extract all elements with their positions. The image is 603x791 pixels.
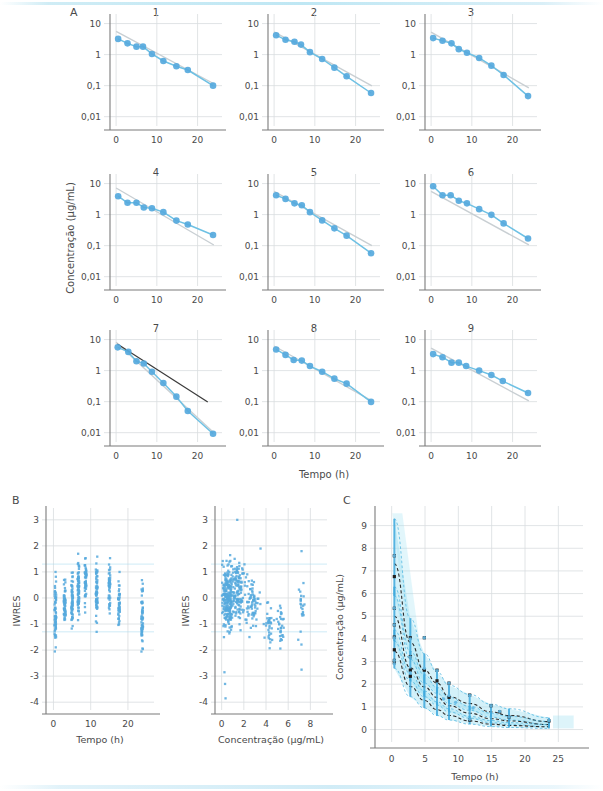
- scatter-point: [55, 598, 57, 600]
- scatter-point: [246, 607, 248, 609]
- observed-point: [393, 623, 396, 626]
- scatter-point: [55, 580, 57, 582]
- data-point: [500, 72, 507, 79]
- scatter-point: [232, 591, 234, 593]
- scatter-point: [265, 622, 267, 624]
- scatter-point: [119, 606, 121, 608]
- scatter-point: [249, 597, 251, 599]
- y-tick-label: 1: [95, 50, 101, 60]
- x-tick-label: 10: [151, 451, 163, 461]
- individual-fit-line: [433, 38, 528, 96]
- scatter-point: [251, 617, 253, 619]
- x-tick-label: 20: [350, 135, 362, 145]
- scatter-point: [279, 640, 281, 642]
- scatter-point: [77, 563, 79, 565]
- y-tick-label: 1: [253, 50, 259, 60]
- y-tick-label: 1: [410, 366, 416, 376]
- data-point: [173, 63, 180, 70]
- scatter-point: [95, 598, 97, 600]
- data-point: [368, 250, 375, 257]
- y-tick-label: 0,1: [245, 241, 259, 251]
- x-tick-label: 0: [113, 451, 119, 461]
- scatter-point: [239, 612, 241, 614]
- scatter-point: [108, 563, 110, 565]
- scatter-point: [118, 588, 120, 590]
- y-tick-label: 0,1: [87, 81, 101, 91]
- scatter-point: [277, 610, 279, 612]
- scatter-point: [239, 629, 241, 631]
- scatter-point: [63, 579, 65, 581]
- data-point: [525, 93, 532, 100]
- scatter-point: [227, 584, 229, 586]
- scatter-point: [223, 671, 225, 673]
- population-fit-line: [431, 348, 529, 401]
- data-point: [299, 357, 306, 364]
- data-point: [456, 197, 463, 204]
- scatter-point: [242, 611, 244, 613]
- scatter-point: [84, 590, 86, 592]
- scatter-point: [238, 608, 240, 610]
- scatter-point: [78, 565, 80, 567]
- scatter-point: [236, 519, 238, 521]
- scatter-point: [266, 617, 268, 619]
- data-point: [307, 363, 314, 370]
- observed-point: [468, 694, 471, 697]
- scatter-point: [108, 594, 110, 596]
- scatter-point: [223, 636, 225, 638]
- scatter-point: [109, 566, 111, 568]
- scatter-point: [234, 558, 236, 560]
- scatter-point: [227, 575, 229, 577]
- data-point: [210, 431, 217, 438]
- scatter-point: [236, 599, 238, 601]
- scatter-point: [140, 633, 142, 635]
- scatter-point: [96, 585, 98, 587]
- scatter-point: [237, 572, 239, 574]
- scatter-point: [109, 602, 111, 604]
- scatter-point: [238, 562, 240, 564]
- scatter-point: [232, 603, 234, 605]
- scatter-point: [280, 613, 282, 615]
- y-tick-label: 1: [202, 567, 208, 577]
- subplot-title: 1: [153, 7, 159, 18]
- x-tick-label: 5: [422, 754, 428, 764]
- observed-point: [498, 710, 501, 713]
- scatter-point: [221, 582, 223, 584]
- x-tick-label: 0: [271, 295, 277, 305]
- scatter-point: [251, 580, 253, 582]
- scatter-point: [302, 582, 304, 584]
- data-point: [439, 354, 446, 361]
- scatter-point: [246, 573, 248, 575]
- scatter-point: [246, 601, 248, 603]
- x-tick-label: 20: [350, 451, 362, 461]
- panel-b-label: B: [12, 494, 20, 507]
- scatter-point: [280, 630, 282, 632]
- population-fit-line: [431, 191, 529, 245]
- data-point: [124, 40, 131, 47]
- scatter-point: [118, 618, 120, 620]
- observed-point: [468, 718, 471, 721]
- y-tick-label: 10: [248, 179, 260, 189]
- scatter-point: [229, 626, 231, 628]
- scatter-point: [229, 631, 231, 633]
- scatter-point: [108, 589, 110, 591]
- scatter-point: [118, 571, 120, 573]
- scatter-point: [140, 650, 142, 652]
- scatter-point: [108, 599, 110, 601]
- scatter-point: [246, 585, 248, 587]
- data-point: [290, 357, 297, 364]
- data-point: [149, 51, 156, 58]
- individual-fit-line: [276, 349, 371, 402]
- scatter-point: [141, 579, 143, 581]
- observed-marker: [393, 648, 396, 651]
- individual-fit-line: [276, 35, 371, 93]
- scatter-point: [254, 598, 256, 600]
- scatter-point: [255, 625, 257, 627]
- data-point: [430, 35, 437, 42]
- scatter-point: [71, 588, 73, 590]
- data-point: [488, 62, 495, 69]
- scatter-point: [224, 697, 226, 699]
- data-point: [298, 41, 305, 48]
- scatter-point: [276, 618, 278, 620]
- scatter-point: [109, 586, 111, 588]
- scatter-point: [251, 608, 253, 610]
